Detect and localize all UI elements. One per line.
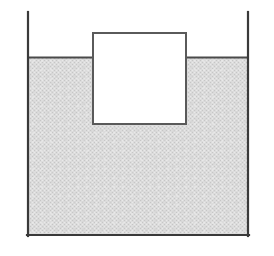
floating-block <box>93 33 186 124</box>
block-body <box>93 33 186 124</box>
buoyancy-diagram-svg <box>0 0 274 256</box>
figure-canvas <box>0 0 274 256</box>
